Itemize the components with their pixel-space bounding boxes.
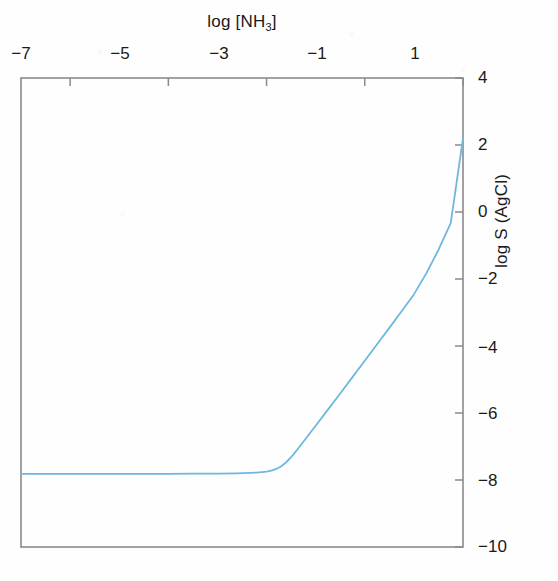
data-series-line xyxy=(21,138,463,474)
x-axis-ticks xyxy=(70,78,463,86)
axis-frame xyxy=(21,78,463,547)
plot-border xyxy=(21,78,463,547)
plot-area xyxy=(0,0,558,581)
chart-figure: log [NH3] log S (AgCl) −7 −5 −3 −1 1 4 2… xyxy=(0,0,558,581)
